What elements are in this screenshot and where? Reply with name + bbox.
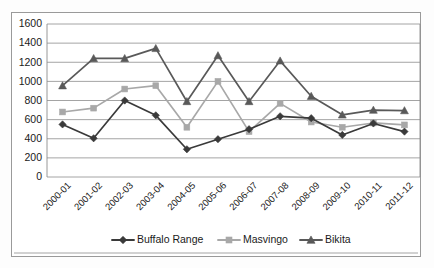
marker-diamond <box>339 131 346 138</box>
y-tick-label: 1400 <box>19 36 43 48</box>
marker-square <box>226 237 232 243</box>
x-tick-label: 2004-05 <box>165 180 197 212</box>
marker-square <box>339 124 345 130</box>
marker-diamond <box>277 113 284 120</box>
y-tick-label: 1000 <box>19 75 43 87</box>
marker-square <box>402 122 408 128</box>
y-tick-label: 0 <box>36 170 42 182</box>
marker-square <box>277 100 283 106</box>
marker-diamond <box>119 236 127 244</box>
x-tick-label: 2009-10 <box>320 180 352 212</box>
x-tick-label: 2001-02 <box>72 180 104 212</box>
series-line <box>63 81 405 131</box>
line-chart-figure: 020040060080010001200140016002000-012001… <box>0 0 434 268</box>
y-axis-tick-labels: 02004006008001000120014001600 <box>19 17 43 182</box>
y-tick-label: 600 <box>24 113 42 125</box>
marker-diamond <box>59 121 66 128</box>
x-tick-label: 2008-09 <box>289 180 321 212</box>
legend-label: Masvingo <box>243 233 288 245</box>
y-tick-label: 1200 <box>19 56 43 68</box>
legend-label: Buffalo Range <box>137 233 204 245</box>
y-tick-label: 1600 <box>19 17 43 29</box>
marker-square <box>91 105 97 111</box>
marker-square <box>215 78 221 84</box>
gridlines-group <box>47 24 420 177</box>
marker-triangle <box>276 57 284 64</box>
x-tick-label: 2002-03 <box>103 180 135 212</box>
chart-legend: Buffalo RangeMasvingoBikita <box>14 233 418 253</box>
x-tick-label: 2005-06 <box>196 180 228 212</box>
marker-diamond <box>401 128 408 135</box>
marker-square <box>184 124 190 130</box>
x-tick-label: 2006-07 <box>227 180 259 212</box>
marker-square <box>60 109 66 115</box>
marker-square <box>153 83 159 89</box>
chart-canvas: 020040060080010001200140016002000-012001… <box>0 0 434 268</box>
x-tick-label: 2007-08 <box>258 180 290 212</box>
y-tick-label: 800 <box>24 94 42 106</box>
legend-label: Bikita <box>325 233 351 245</box>
x-tick-label: 2011-12 <box>383 180 415 212</box>
marker-diamond <box>214 136 221 143</box>
series-masvingo <box>60 78 408 134</box>
x-axis-tick-labels: 2000-012001-022002-032003-042004-052005-… <box>41 180 415 212</box>
marker-square <box>122 86 128 92</box>
y-tick-label: 400 <box>24 132 42 144</box>
marker-triangle <box>152 44 160 51</box>
marker-triangle <box>214 52 222 59</box>
y-tick-label: 200 <box>24 151 42 163</box>
x-tick-label: 2010-11 <box>352 180 384 212</box>
x-tick-label: 2003-04 <box>134 180 166 212</box>
x-tick-label: 2000-01 <box>41 180 73 212</box>
